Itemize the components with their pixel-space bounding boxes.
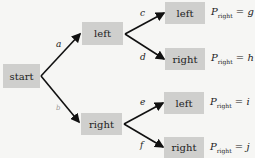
edge-f	[124, 124, 163, 147]
outcome-symbol: P	[210, 141, 217, 152]
edge-label-b: b	[56, 104, 60, 112]
outcome-value: h	[247, 52, 253, 63]
outcome-value: g	[247, 6, 253, 17]
outcome-equals: =	[235, 141, 243, 152]
outcome-g: Pright = g	[211, 6, 254, 19]
outcome-value: i	[246, 96, 249, 107]
node-left-left: left	[165, 2, 205, 24]
node-left-right: right	[165, 48, 205, 70]
outcome-symbol: P	[211, 6, 218, 17]
edge-label-a: a	[56, 39, 61, 49]
node-left: left	[82, 22, 123, 45]
node-right-left: left	[164, 92, 204, 114]
outcome-subscript: right	[217, 147, 232, 154]
outcome-subscript: right	[218, 12, 233, 19]
outcome-symbol: P	[211, 52, 218, 63]
outcome-equals: =	[236, 52, 244, 63]
outcome-equals: =	[236, 6, 244, 17]
edge-label-f: f	[140, 140, 143, 150]
node-start: start	[3, 64, 40, 88]
outcome-subscript: right	[218, 58, 233, 65]
node-right: right	[81, 113, 122, 135]
outcome-subscript: right	[217, 102, 232, 109]
node-right-right: right	[164, 137, 204, 158]
outcome-symbol: P	[210, 96, 217, 107]
edge-label-c: c	[140, 8, 145, 18]
outcome-i: Pright = i	[210, 96, 250, 109]
edge-b	[41, 76, 79, 122]
edge-label-d: d	[140, 52, 146, 62]
edge-label-e: e	[140, 97, 145, 107]
outcome-equals: =	[235, 96, 243, 107]
outcome-j: Pright = j	[210, 141, 250, 154]
outcome-h: Pright = h	[211, 52, 254, 65]
outcome-value: j	[246, 141, 249, 152]
